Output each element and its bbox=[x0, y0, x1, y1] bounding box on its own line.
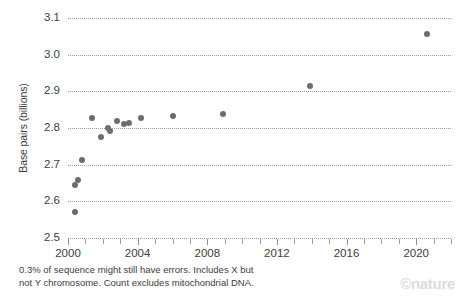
x-axis-major-tick bbox=[277, 239, 278, 245]
data-point bbox=[138, 115, 144, 121]
data-point bbox=[307, 83, 313, 89]
data-point bbox=[75, 177, 81, 183]
y-axis-tick-label: 2.6 bbox=[20, 194, 60, 206]
x-axis-tick-label: 2004 bbox=[108, 247, 168, 259]
x-axis-minor-tick bbox=[242, 239, 243, 244]
x-axis-minor-tick bbox=[225, 239, 226, 244]
x-axis-minor-tick bbox=[173, 239, 174, 244]
data-point bbox=[79, 157, 85, 163]
data-point bbox=[89, 115, 95, 121]
x-axis-minor-tick bbox=[399, 239, 400, 244]
data-point bbox=[126, 120, 132, 126]
x-axis-minor-tick bbox=[155, 239, 156, 244]
plot-area bbox=[68, 18, 451, 238]
data-point bbox=[114, 118, 120, 124]
gridline bbox=[68, 201, 451, 202]
x-axis-tick-label: 2016 bbox=[317, 247, 377, 259]
x-axis-tick-label: 2008 bbox=[177, 247, 237, 259]
data-point bbox=[220, 111, 226, 117]
x-axis-minor-tick bbox=[451, 239, 452, 244]
data-point bbox=[72, 209, 78, 215]
y-axis-tick-label: 2.8 bbox=[20, 121, 60, 133]
gridline bbox=[68, 55, 451, 56]
gridline bbox=[68, 18, 451, 19]
chart-footnote: 0.3% of sequence might still have errors… bbox=[19, 264, 319, 289]
x-axis-minor-tick bbox=[329, 239, 330, 244]
x-axis-minor-tick bbox=[364, 239, 365, 244]
gridline bbox=[68, 165, 451, 166]
y-axis-tick-label: 2.7 bbox=[20, 158, 60, 170]
x-axis-tick-label: 2020 bbox=[386, 247, 446, 259]
y-axis-tick-label: 2.9 bbox=[20, 84, 60, 96]
gridline bbox=[68, 128, 451, 129]
x-axis-major-tick bbox=[68, 239, 69, 245]
nature-logo: ©nature bbox=[400, 275, 455, 292]
x-axis-tick-label: 2012 bbox=[247, 247, 307, 259]
data-point bbox=[98, 134, 104, 140]
x-axis-minor-tick bbox=[434, 239, 435, 244]
x-axis-major-tick bbox=[207, 239, 208, 245]
x-axis-minor-tick bbox=[294, 239, 295, 244]
x-axis-major-tick bbox=[347, 239, 348, 245]
gridline bbox=[68, 91, 451, 92]
y-axis-tick-label: 3.1 bbox=[20, 11, 60, 23]
data-point bbox=[170, 113, 176, 119]
x-axis-minor-tick bbox=[381, 239, 382, 244]
x-axis-minor-tick bbox=[260, 239, 261, 244]
x-axis-major-tick bbox=[138, 239, 139, 245]
footnote-line-2: not Y chromosome. Count excludes mitocho… bbox=[19, 277, 319, 290]
y-axis-tick-label: 3.0 bbox=[20, 48, 60, 60]
x-axis-minor-tick bbox=[120, 239, 121, 244]
x-axis-minor-tick bbox=[312, 239, 313, 244]
x-axis-tick-label: 2000 bbox=[38, 247, 98, 259]
x-axis-minor-tick bbox=[85, 239, 86, 244]
data-point bbox=[424, 31, 430, 37]
y-axis-tick-label: 2.5 bbox=[20, 231, 60, 243]
data-point bbox=[107, 128, 113, 134]
x-axis-minor-tick bbox=[103, 239, 104, 244]
chart-figure: Base pairs (billions) 200020042008201220… bbox=[0, 0, 469, 296]
x-axis-minor-tick bbox=[190, 239, 191, 244]
footnote-line-1: 0.3% of sequence might still have errors… bbox=[19, 264, 319, 277]
x-axis-major-tick bbox=[416, 239, 417, 245]
